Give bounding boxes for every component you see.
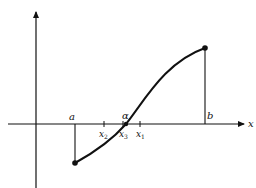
diagram-canvas: a b α x x2 x3 x1 bbox=[0, 0, 256, 188]
label-a: a bbox=[69, 111, 75, 122]
label-alpha: α bbox=[122, 110, 129, 121]
endpoint-fa-dot bbox=[72, 160, 78, 166]
label-b: b bbox=[207, 110, 213, 121]
x-axis-label: x bbox=[248, 118, 254, 129]
label-x1: x1 bbox=[136, 129, 145, 140]
function-curve bbox=[75, 48, 205, 163]
label-x3: x3 bbox=[119, 129, 128, 140]
endpoint-fb-dot bbox=[202, 45, 208, 51]
root-alpha-dot bbox=[124, 122, 128, 126]
label-x2: x2 bbox=[99, 129, 108, 140]
